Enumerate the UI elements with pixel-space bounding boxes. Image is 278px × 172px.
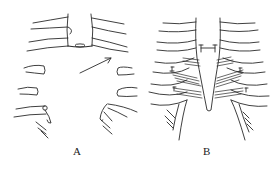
panel-label-a: A [73, 145, 81, 157]
panel-a-drawing [0, 0, 139, 172]
suture-icon [199, 45, 217, 52]
panel-label-b: B [203, 145, 210, 157]
panel-b: B [139, 0, 278, 172]
panel-a: A [0, 0, 139, 172]
figure: A [0, 0, 278, 172]
arrow-icon [80, 58, 111, 73]
